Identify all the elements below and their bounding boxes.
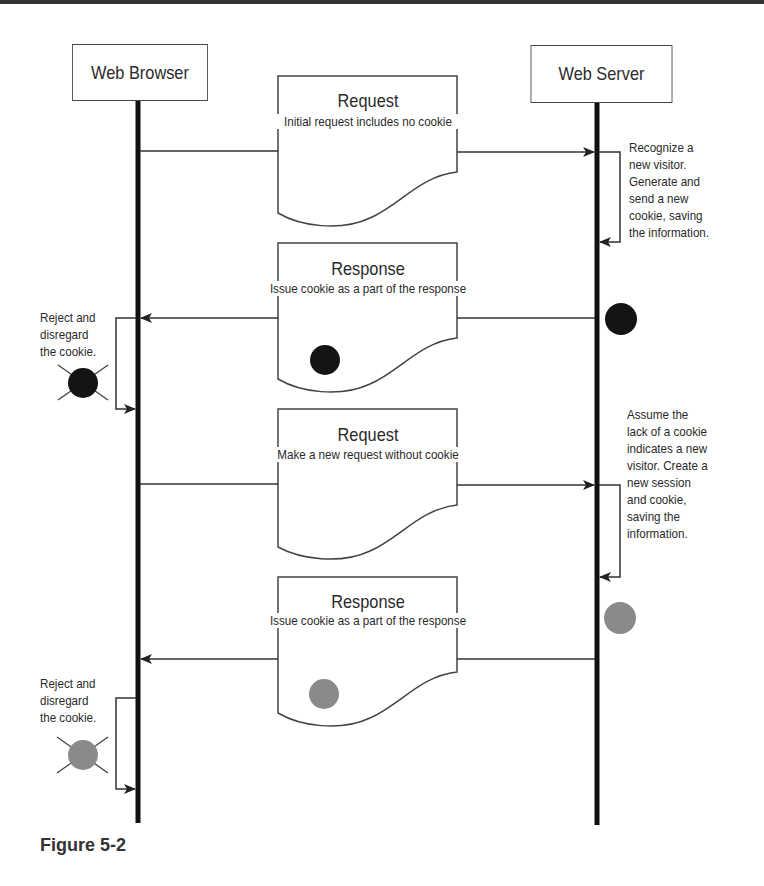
cookie-icon-black-server [605,303,637,335]
browser-note-2: Reject and disregard the cookie. [40,675,96,726]
message-4-title: Response [291,591,446,613]
rejected-cookie-icon-gray [57,737,108,773]
message-3-title: Request [291,424,446,446]
server-process-loop-2 [599,485,620,577]
message-2-subtitle: Issue cookie as a part of the response [246,281,490,296]
actor-web-browser: Web Browser [72,44,208,101]
message-1-title: Request [291,90,446,112]
browser-note-1: Reject and disregard the cookie. [40,309,96,360]
actor-web-server: Web Server [531,45,673,103]
message-2-title: Response [291,258,446,280]
server-process-loop-1 [599,152,620,242]
cookie-icon-gray-in-response [309,679,339,709]
server-note-1: Recognize a new visitor. Generate and se… [629,139,709,241]
rejected-cookie-icon-black [58,365,108,400]
cookie-icon-black-in-response [310,345,340,375]
cookie-icon-gray-server [604,602,636,634]
figure-caption: Figure 5-2 [40,835,126,856]
message-3-subtitle: Make a new request without cookie [256,447,480,462]
server-note-2: Assume the lack of a cookie indicates a … [627,406,708,542]
message-4-subtitle: Issue cookie as a part of the response [246,613,490,628]
message-1-subtitle: Initial request includes no cookie [267,114,470,129]
